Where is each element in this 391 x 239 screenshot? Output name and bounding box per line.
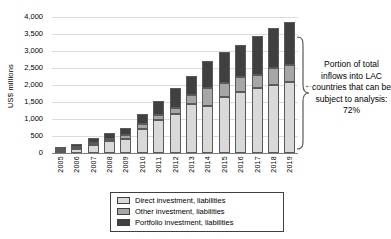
other-investment-segment-2017 <box>252 75 263 89</box>
portfolio-investment-segment-2009 <box>120 128 131 136</box>
bar-cell-2018 <box>265 17 281 153</box>
bar-2013 <box>186 76 197 154</box>
bar-2016 <box>235 45 246 153</box>
bar-2014 <box>202 61 213 153</box>
bar-2019 <box>284 22 295 153</box>
curly-brace <box>296 36 310 150</box>
direct-investment-segment-2010 <box>137 129 148 153</box>
x-tick-2013: 2013 <box>188 156 195 173</box>
x-tick-2019: 2019 <box>286 156 293 173</box>
portfolio-investment-segment-2012 <box>170 88 181 108</box>
direct-investment-segment-2014 <box>202 106 213 153</box>
x-tick-cell-2018: 2018 <box>265 156 281 173</box>
legend-item-other: Other investment, liabilities <box>117 207 277 216</box>
legend-item-direct: Direct investment, liabilities <box>117 196 277 205</box>
y-tick-3,000: 3,000 <box>24 47 43 55</box>
x-tick-2012: 2012 <box>172 156 179 173</box>
bar-cell-2017 <box>249 17 265 153</box>
portfolio-investment-segment-2011 <box>153 101 164 115</box>
x-tick-2011: 2011 <box>155 156 162 173</box>
x-axis-tick-labels: 2005200620072008200920102011201220132014… <box>52 156 298 173</box>
direct-investment-segment-2017 <box>252 88 263 153</box>
y-tick-0: 0 <box>39 149 43 157</box>
bar-cell-2014 <box>200 17 216 153</box>
portfolio-investment-segment-2017 <box>252 36 263 75</box>
x-tick-cell-2008: 2008 <box>101 156 117 173</box>
y-tick-2,000: 2,000 <box>24 81 43 89</box>
bar-2017 <box>252 36 263 153</box>
portfolio-investment-segment-2016 <box>235 45 246 77</box>
direct-investment-segment-2019 <box>284 82 295 153</box>
bar-2011 <box>153 101 164 153</box>
other-investment-segment-2014 <box>202 88 213 106</box>
x-tick-cell-2005: 2005 <box>52 156 68 173</box>
bar-2007 <box>88 138 99 153</box>
bar-2018 <box>268 28 279 153</box>
y-axis-title: US$ millions <box>6 64 15 108</box>
bar-cell-2008 <box>101 17 117 153</box>
x-tick-cell-2006: 2006 <box>68 156 84 173</box>
portfolio-investment-segment-2010 <box>137 114 148 124</box>
x-tick-2005: 2005 <box>57 156 64 173</box>
bar-cell-2007 <box>85 17 101 153</box>
other-investment-swatch <box>117 208 130 215</box>
portfolio-investment-swatch <box>117 219 130 226</box>
x-tick-cell-2019: 2019 <box>282 156 298 173</box>
y-tick-1,500: 1,500 <box>24 98 43 106</box>
portfolio-investment-segment-2019 <box>284 22 295 65</box>
portfolio-investment-segment-2014 <box>202 61 213 88</box>
x-tick-cell-2017: 2017 <box>249 156 265 173</box>
y-tick-4,000: 4,000 <box>24 13 43 21</box>
legend: Direct investment, liabilities Other inv… <box>110 192 284 232</box>
legend-item-portfolio: Portfolio investment, liabilities <box>117 218 277 227</box>
chart-figure: US$ millions 4,0003,5003,0002,5002,0001,… <box>0 0 391 239</box>
direct-investment-swatch <box>117 197 130 204</box>
x-tick-2018: 2018 <box>270 156 277 173</box>
bar-cell-2010 <box>134 17 150 153</box>
annotation-text: Portion of total inflows into LAC countr… <box>312 59 391 117</box>
direct-investment-segment-2007 <box>88 145 99 153</box>
y-tick-3,500: 3,500 <box>24 30 43 38</box>
bar-cell-2011 <box>150 17 166 153</box>
other-investment-segment-2013 <box>186 95 197 104</box>
x-tick-cell-2007: 2007 <box>85 156 101 173</box>
direct-investment-segment-2011 <box>153 120 164 153</box>
other-investment-segment-2019 <box>284 65 295 82</box>
x-tick-cell-2011: 2011 <box>150 156 166 173</box>
x-tick-cell-2014: 2014 <box>200 156 216 173</box>
direct-investment-segment-2018 <box>268 85 279 153</box>
bar-cell-2005 <box>52 17 68 153</box>
bar-2006 <box>71 144 82 153</box>
x-tick-cell-2013: 2013 <box>183 156 199 173</box>
bar-cell-2013 <box>183 17 199 153</box>
x-tick-cell-2010: 2010 <box>134 156 150 173</box>
bar-2009 <box>120 128 131 153</box>
bar-cell-2012 <box>167 17 183 153</box>
x-tick-2009: 2009 <box>122 156 129 173</box>
bar-2005 <box>55 147 66 153</box>
legend-label-portfolio: Portfolio investment, liabilities <box>135 218 233 227</box>
bar-2008 <box>104 133 115 153</box>
portfolio-investment-segment-2013 <box>186 76 197 96</box>
bar-2010 <box>137 114 148 153</box>
legend-label-other: Other investment, liabilities <box>135 207 225 216</box>
y-tick-2,500: 2,500 <box>24 64 43 72</box>
other-investment-segment-2015 <box>219 83 230 97</box>
y-tick-1,000: 1,000 <box>24 115 43 123</box>
x-tick-2017: 2017 <box>254 156 261 173</box>
x-tick-cell-2015: 2015 <box>216 156 232 173</box>
portfolio-investment-segment-2018 <box>268 28 279 68</box>
bar-cell-2006 <box>68 17 84 153</box>
direct-investment-segment-2013 <box>186 104 197 153</box>
x-tick-2006: 2006 <box>73 156 80 173</box>
other-investment-segment-2018 <box>268 68 279 85</box>
x-tick-2007: 2007 <box>90 156 97 173</box>
x-tick-2014: 2014 <box>204 156 211 173</box>
x-tick-2016: 2016 <box>237 156 244 173</box>
x-tick-cell-2012: 2012 <box>167 156 183 173</box>
direct-investment-segment-2006 <box>71 149 82 153</box>
direct-investment-segment-2015 <box>219 97 230 153</box>
direct-investment-segment-2012 <box>170 114 181 153</box>
bar-2015 <box>219 52 230 153</box>
other-investment-segment-2016 <box>235 77 246 92</box>
